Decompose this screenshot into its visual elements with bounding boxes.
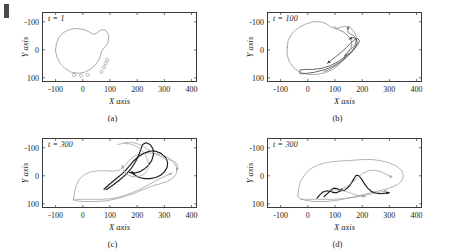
plot-area: t = 3001000-100-1000100200300400X axisY … xyxy=(267,138,422,208)
x-tick-label: 0 xyxy=(81,211,85,220)
x-axis-title: X axis xyxy=(109,222,130,232)
time-label: t = 300 xyxy=(48,140,73,149)
panel-b: t = 1001000-100-1000100200300400X axisY … xyxy=(225,0,450,126)
y-axis-title-text: Y axis xyxy=(245,37,255,58)
swarm-boundary xyxy=(298,160,404,202)
x-axis-title-text: X axis xyxy=(334,222,355,232)
x-tick-label: -100 xyxy=(48,85,63,94)
x-tick-label: 100 xyxy=(104,211,116,220)
x-tick-label: 200 xyxy=(131,85,143,94)
panel-caption: (c) xyxy=(108,239,117,249)
y-tick-label: -100 xyxy=(249,143,264,152)
agent-marker xyxy=(104,62,107,65)
x-tick-label: -100 xyxy=(273,211,288,220)
y-tick-label: 0 xyxy=(35,45,39,54)
time-label: t = 300 xyxy=(273,140,298,149)
x-tick-label: 0 xyxy=(306,85,310,94)
x-axis-title: X axis xyxy=(109,96,130,106)
x-tick-label: 100 xyxy=(329,85,341,94)
x-axis-title-text: X axis xyxy=(109,96,130,106)
trajectory-1 xyxy=(300,39,360,74)
agent-marker xyxy=(80,74,83,77)
panel-c: t = 3001000-100-1000100200300400X axisY … xyxy=(0,126,225,252)
plot-area: t = 1001000-100-1000100200300400X axisY … xyxy=(267,12,422,82)
y-axis-title-text: Y axis xyxy=(245,163,255,184)
y-tick-label: -100 xyxy=(24,143,39,152)
trajectory-canvas xyxy=(42,12,197,82)
trajectory-gray-1 xyxy=(118,143,149,177)
y-axis-title: Y axis xyxy=(20,163,30,184)
y-tick-label: 0 xyxy=(260,45,264,54)
x-axis-title-text: X axis xyxy=(109,222,130,232)
trajectory-dark-1 xyxy=(104,151,168,189)
trajectory-dark-2 xyxy=(106,143,153,190)
x-tick-label: 200 xyxy=(131,211,143,220)
x-tick-label: 300 xyxy=(383,211,395,220)
y-axis-title: Y axis xyxy=(20,37,30,58)
panel-d: t = 3001000-100-1000100200300400X axisY … xyxy=(225,126,450,252)
x-tick-label: -100 xyxy=(273,85,288,94)
y-axis-title: Y axis xyxy=(245,37,255,58)
panel-caption: (d) xyxy=(333,239,343,249)
y-tick-label: -100 xyxy=(249,17,264,26)
x-tick-label: 300 xyxy=(383,85,395,94)
x-tick-label: -100 xyxy=(48,211,63,220)
plot-area: t = 11000-100-1000100200300400X axisY ax… xyxy=(42,12,197,82)
plot-area: t = 3001000-100-1000100200300400X axisY … xyxy=(42,138,197,208)
time-label: t = 1 xyxy=(48,14,65,23)
y-tick-label: 100 xyxy=(252,73,264,82)
x-tick-label: 200 xyxy=(356,211,368,220)
x-axis-title-text: X axis xyxy=(334,96,355,106)
x-tick-label: 400 xyxy=(186,211,198,220)
x-tick-label: 200 xyxy=(356,85,368,94)
x-axis-title: X axis xyxy=(334,96,355,106)
x-tick-label: 0 xyxy=(306,211,310,220)
y-axis-title: Y axis xyxy=(245,163,255,184)
x-tick-label: 100 xyxy=(329,211,341,220)
x-tick-label: 400 xyxy=(411,85,423,94)
x-tick-label: 0 xyxy=(81,85,85,94)
y-axis-title-text: Y axis xyxy=(20,163,30,184)
y-tick-label: 0 xyxy=(35,171,39,180)
agent-marker xyxy=(86,73,89,76)
trajectory-arrowhead xyxy=(327,60,330,63)
swarm-boundary xyxy=(74,153,177,202)
trajectory-gray-3 xyxy=(326,190,366,197)
figure-container: t = 11000-100-1000100200300400X axisY ax… xyxy=(0,0,450,252)
panel-caption: (a) xyxy=(108,113,117,123)
agent-marker xyxy=(100,70,103,73)
x-tick-label: 100 xyxy=(104,85,116,94)
x-axis-title: X axis xyxy=(334,222,355,232)
trajectory-4 xyxy=(334,26,352,56)
y-axis-title-text: Y axis xyxy=(20,37,30,58)
x-tick-label: 300 xyxy=(158,85,170,94)
y-tick-label: 100 xyxy=(27,199,39,208)
x-tick-label: 400 xyxy=(186,85,198,94)
x-tick-label: 400 xyxy=(411,211,423,220)
x-tick-label: 300 xyxy=(158,211,170,220)
panel-a: t = 11000-100-1000100200300400X axisY ax… xyxy=(0,0,225,126)
time-label: t = 100 xyxy=(273,14,298,23)
agent-marker xyxy=(106,58,109,61)
agent-marker xyxy=(72,73,75,76)
panel-caption: (b) xyxy=(333,113,343,123)
y-tick-label: 100 xyxy=(252,199,264,208)
swarm-boundary xyxy=(56,29,109,74)
agent-marker xyxy=(102,66,105,69)
y-tick-label: -100 xyxy=(24,17,39,26)
y-tick-label: 100 xyxy=(27,73,39,82)
y-tick-label: 0 xyxy=(260,171,264,180)
